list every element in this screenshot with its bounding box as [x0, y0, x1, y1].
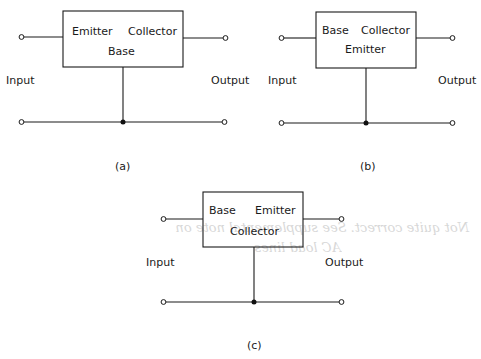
panel-a-output-terminal-top [223, 36, 228, 41]
panel-a-junction-dot [121, 120, 126, 125]
panel-a-common-base: Emitter Collector Base Input Output (a) [6, 11, 250, 173]
panel-a-caption: (a) [115, 160, 130, 173]
panel-c-box-left-label: Base [209, 204, 236, 217]
panel-b-output-terminal-bottom [450, 121, 455, 126]
panel-b-input-label: Input [268, 74, 297, 87]
bleed-through-note: Not quite correct. See supplemental note… [175, 220, 470, 255]
panel-a-box-center-label: Base [108, 45, 135, 58]
panel-c-box-center-label: Collector [230, 225, 279, 238]
panel-a-input-terminal-bottom [19, 120, 24, 125]
panel-c-junction-dot [252, 300, 257, 305]
panel-b-output-terminal-top [450, 36, 455, 41]
panel-c-output-terminal-bottom [339, 300, 344, 305]
panel-c-caption: (c) [247, 339, 262, 352]
panel-c-output-label: Output [325, 256, 364, 269]
panel-a-transistor-box [63, 11, 183, 67]
panel-b-input-terminal-top [279, 36, 284, 41]
panel-b-output-label: Output [438, 74, 477, 87]
panel-a-output-terminal-bottom [222, 120, 227, 125]
panel-a-box-right-label: Collector [128, 25, 177, 38]
panel-b-box-center-label: Emitter [345, 43, 386, 56]
panel-b-caption: (b) [360, 160, 376, 173]
panel-c-input-label: Input [146, 256, 175, 269]
panel-b-junction-dot [364, 121, 369, 126]
panel-c-input-terminal-top [161, 217, 166, 222]
panel-b-input-terminal-bottom [279, 121, 284, 126]
panel-c-box-right-label: Emitter [255, 204, 296, 217]
panel-c-common-collector: Base Emitter Collector Input Output (c) [146, 192, 364, 352]
panel-a-input-label: Input [6, 74, 35, 87]
panel-b-box-left-label: Base [322, 24, 349, 37]
panel-b-box-right-label: Collector [361, 24, 410, 37]
transistor-configurations-diagram: Not quite correct. See supplemental note… [0, 0, 481, 359]
panel-a-output-label: Output [211, 74, 250, 87]
panel-b-transistor-box [316, 12, 416, 68]
panel-c-input-terminal-bottom [161, 300, 166, 305]
panel-b-common-emitter: Base Collector Emitter Input Output (b) [268, 12, 477, 173]
panel-a-input-terminal-top [19, 35, 24, 40]
panel-a-box-left-label: Emitter [72, 25, 113, 38]
panel-c-output-terminal-top [339, 217, 344, 222]
bleed-through-line-1: Not quite correct. See supplemental note… [175, 220, 470, 235]
